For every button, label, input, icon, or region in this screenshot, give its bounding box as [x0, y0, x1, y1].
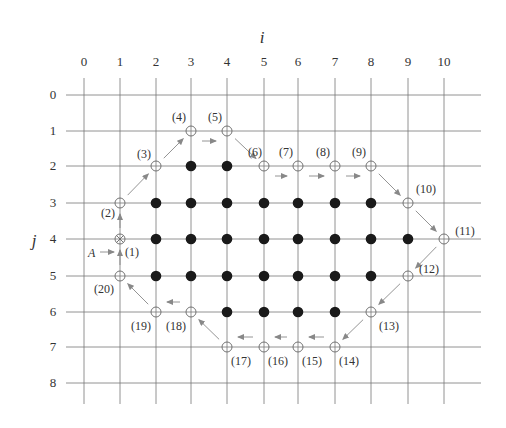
boundary-point	[151, 307, 161, 317]
boundary-point	[222, 126, 232, 136]
y-tick-label: 1	[50, 123, 57, 138]
boundary-point-label: (9)	[352, 145, 366, 159]
x-tick-labels: 012345678910	[81, 54, 451, 69]
filled-point	[259, 271, 270, 282]
x-tick-label: 10	[438, 54, 451, 69]
boundary-arrow-icon	[128, 174, 149, 195]
x-tick-label: 0	[81, 54, 88, 69]
boundary-point-label: (14)	[339, 354, 359, 368]
filled-point	[151, 271, 162, 282]
boundary-point	[330, 342, 340, 352]
boundary-point-label: (17)	[231, 354, 251, 368]
boundary-point	[259, 161, 269, 171]
filled-point	[293, 271, 304, 282]
filled-point	[330, 307, 341, 318]
filled-point	[366, 271, 377, 282]
boundary-point-label: (19)	[131, 319, 151, 333]
filled-point	[366, 234, 377, 245]
boundary-point	[439, 234, 449, 244]
boundary-point	[115, 198, 125, 208]
filled-point	[293, 234, 304, 245]
y-tick-label: 6	[50, 304, 57, 319]
filled-point	[403, 234, 414, 245]
start-marker-label: A	[87, 246, 96, 260]
x-tick-label: 5	[261, 54, 268, 69]
boundary-arrow-icon	[343, 320, 363, 340]
x-tick-label: 2	[153, 54, 160, 69]
filled-point	[186, 234, 197, 245]
boundary-point	[330, 161, 340, 171]
boundary-point	[186, 126, 196, 136]
boundary-point	[366, 307, 376, 317]
boundary-point-label: (13)	[379, 319, 399, 333]
filled-point	[186, 161, 197, 172]
filled-point	[293, 307, 304, 318]
filled-point	[222, 271, 233, 282]
x-tick-label: 8	[368, 54, 375, 69]
boundary-point-label: (5)	[208, 110, 222, 124]
boundary-point-label: (12)	[419, 262, 439, 276]
x-tick-label: 7	[332, 54, 339, 69]
boundary-arrow-icon	[128, 284, 148, 304]
boundary-point-label: (7)	[279, 145, 293, 159]
boundary-point-label: (3)	[137, 147, 151, 161]
filled-point	[222, 198, 233, 209]
boundary-arrow-icon	[379, 284, 400, 305]
boundary-arrow-icon	[199, 320, 219, 340]
boundary-point	[403, 198, 413, 208]
x-tick-label: 3	[188, 54, 195, 69]
x-tick-label: 4	[224, 54, 231, 69]
filled-point	[186, 198, 197, 209]
filled-point	[151, 234, 162, 245]
x-tick-label: 1	[117, 54, 124, 69]
y-tick-label: 5	[50, 268, 57, 283]
y-tick-label: 2	[50, 158, 57, 173]
boundary-point-label: (18)	[166, 319, 186, 333]
filled-point	[259, 198, 270, 209]
filled-point	[186, 271, 197, 282]
diagram-canvas: i j 012345678910 012345678 (1)(2)(3)(4)(…	[0, 0, 506, 428]
y-tick-label: 3	[50, 195, 57, 210]
filled-point	[222, 234, 233, 245]
boundary-point-label: (2)	[101, 206, 115, 220]
filled-point	[330, 234, 341, 245]
start-marker: A	[87, 246, 114, 260]
boundary-point	[403, 271, 413, 281]
boundary-point-label: (8)	[316, 145, 330, 159]
y-axis-label: j	[30, 231, 37, 250]
filled-point	[330, 198, 341, 209]
filled-point	[259, 234, 270, 245]
y-tick-labels: 012345678	[50, 87, 57, 390]
x-tick-label: 6	[295, 54, 302, 69]
boundary-arrow-icon	[379, 174, 400, 195]
boundary-point-label: (6)	[248, 145, 262, 159]
boundary-point	[115, 271, 125, 281]
boundary-point	[366, 161, 376, 171]
boundary-tracing-diagram: i j 012345678910 012345678 (1)(2)(3)(4)(…	[0, 0, 506, 428]
y-tick-label: 0	[50, 87, 57, 102]
filled-point	[259, 307, 270, 318]
boundary-point	[151, 161, 161, 171]
boundary-point-label: (1)	[125, 245, 139, 259]
filled-point	[330, 271, 341, 282]
boundary-arrow-icon	[164, 139, 183, 158]
boundary-point-label: (20)	[94, 282, 114, 296]
y-tick-label: 7	[50, 339, 57, 354]
boundary-point	[293, 161, 303, 171]
x-tick-label: 9	[405, 54, 412, 69]
boundary-arrow-icon	[416, 211, 436, 231]
boundary-point	[293, 342, 303, 352]
filled-point	[222, 307, 233, 318]
filled-point	[293, 198, 304, 209]
boundary-point-label: (11)	[455, 224, 475, 238]
y-tick-label: 4	[50, 231, 57, 246]
boundary-point-label: (16)	[268, 354, 288, 368]
boundary-point-label: (4)	[172, 110, 186, 124]
boundary-point-label: (15)	[302, 354, 322, 368]
y-tick-label: 8	[50, 375, 57, 390]
x-axis-label: i	[260, 28, 265, 47]
filled-point	[151, 198, 162, 209]
boundary-point	[186, 307, 196, 317]
boundary-point	[259, 342, 269, 352]
boundary-point-label: (10)	[416, 182, 436, 196]
